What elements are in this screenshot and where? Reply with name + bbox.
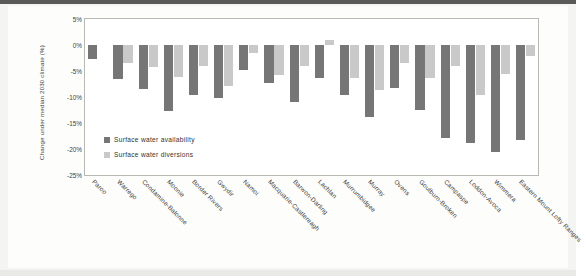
bar-surface-water-diversions [425, 45, 434, 78]
bar-surface-water-availability [189, 45, 198, 95]
bar-surface-water-availability [441, 45, 450, 138]
y-tick-label: 0% [52, 42, 82, 49]
y-tick-label: 5% [52, 16, 82, 23]
bar-surface-water-diversions [350, 45, 359, 78]
bar-surface-water-diversions [199, 45, 208, 66]
x-tick-label: Wimmera [493, 178, 518, 203]
x-tick-label: Lachlan [317, 178, 339, 200]
bar-surface-water-diversions [451, 45, 460, 66]
square-swatch-icon [104, 152, 110, 158]
bar-surface-water-diversions [375, 45, 384, 90]
x-tick-label: Gwydir [216, 178, 236, 198]
bar-group [387, 19, 412, 175]
x-tick-label: Condamine-Balonne [141, 178, 189, 226]
bar-group [362, 19, 387, 175]
bar-surface-water-diversions [325, 40, 334, 45]
bar-group [463, 19, 488, 175]
bar-surface-water-availability [415, 45, 424, 110]
bar-surface-water-availability [340, 45, 349, 95]
bar-surface-water-availability [390, 45, 399, 88]
bar-surface-water-availability [139, 45, 148, 89]
square-swatch-icon [104, 137, 110, 143]
y-tick-label: -15% [52, 120, 82, 127]
x-tick-label: Macquarie-Castlereagh [267, 178, 321, 232]
x-tick-label: Warrego [116, 178, 139, 201]
bar-group [412, 19, 437, 175]
chart-legend: Surface water availabilitySurface water … [104, 132, 304, 162]
bar-surface-water-availability [491, 45, 500, 152]
x-tick-label: Murray [367, 178, 387, 198]
bar-chart-figure: Change under median 2030 climate (%) 5%0… [8, 6, 568, 268]
bar-surface-water-diversions [400, 45, 409, 63]
bar-surface-water-diversions [149, 45, 158, 67]
bar-surface-water-diversions [526, 45, 535, 56]
bar-surface-water-diversions [174, 45, 183, 77]
bar-surface-water-diversions [123, 45, 132, 63]
legend-label: Surface water diversions [114, 151, 193, 158]
bar-group [312, 19, 337, 175]
y-axis-tick-labels: 5%0%-5%-10%-15%-20%-25% [52, 6, 82, 188]
y-tick-label: -25% [52, 172, 82, 179]
y-tick-label: -5% [52, 68, 82, 75]
bar-surface-water-availability [365, 45, 374, 117]
bar-surface-water-availability [88, 45, 97, 59]
bar-group [488, 19, 513, 175]
bar-surface-water-availability [264, 45, 273, 83]
bar-surface-water-diversions [224, 45, 233, 86]
x-tick-label: Eastern Mount Lofty Ranges [518, 178, 583, 243]
bar-surface-water-availability [466, 45, 475, 143]
x-tick-label: Moonie [166, 178, 186, 198]
y-axis-title: Change under median 2030 climate (%) [38, 23, 45, 183]
bar-group [437, 19, 462, 175]
bar-surface-water-availability [516, 45, 525, 140]
bar-surface-water-diversions [476, 45, 485, 95]
bar-surface-water-availability [290, 45, 299, 102]
legend-item: Surface water availability [104, 132, 304, 147]
legend-label: Surface water availability [114, 136, 195, 143]
x-axis-tick-labels: ParooWarregoCondamine-BalonneMoonieBorde… [85, 178, 538, 268]
bar-group [337, 19, 362, 175]
legend-item: Surface water diversions [104, 147, 304, 162]
x-tick-label: Paroo [91, 178, 109, 196]
bar-surface-water-availability [315, 45, 324, 78]
page-top-rule [0, 0, 576, 4]
bar-surface-water-diversions [249, 45, 258, 53]
bar-surface-water-availability [214, 45, 223, 98]
bar-surface-water-availability [164, 45, 173, 111]
bar-surface-water-diversions [274, 45, 283, 75]
bar-group [513, 19, 538, 175]
x-tick-label: Namoi [242, 178, 261, 197]
y-tick-label: -20% [52, 146, 82, 153]
page-bottom-shadow [0, 270, 576, 276]
bar-surface-water-diversions [300, 45, 309, 66]
bar-surface-water-availability [239, 45, 248, 70]
y-tick-label: -10% [52, 94, 82, 101]
bar-surface-water-availability [113, 45, 122, 79]
bar-surface-water-diversions [501, 45, 510, 74]
x-tick-label: Ovens [393, 178, 412, 197]
